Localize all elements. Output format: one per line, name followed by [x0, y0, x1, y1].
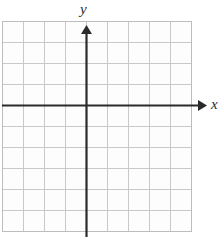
- coordinate-grid-figure: y x: [0, 0, 222, 251]
- coordinate-plane-svg: [0, 0, 222, 251]
- x-axis-label: x: [211, 97, 218, 112]
- x-axis-arrowhead-icon: [198, 100, 207, 111]
- y-axis-label: y: [80, 2, 87, 17]
